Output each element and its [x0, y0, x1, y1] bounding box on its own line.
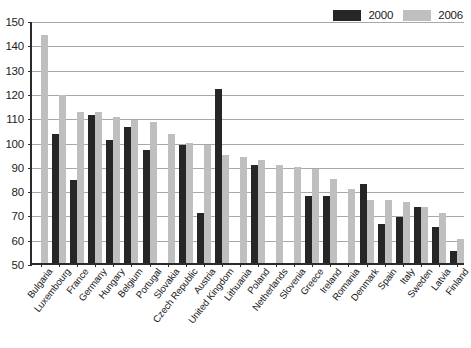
bar-group: [303, 22, 321, 263]
bar-group: [430, 22, 448, 263]
bar-2000: [143, 150, 150, 263]
bar-2000: [305, 196, 312, 263]
bar-2006: [204, 145, 211, 263]
bar-group: [231, 22, 249, 263]
legend-swatch-2006: [403, 10, 431, 21]
bar-2000: [450, 251, 457, 263]
bar-group: [159, 22, 177, 263]
y-axis-tick-label: 110: [0, 113, 24, 125]
bar-2006: [186, 143, 193, 263]
bar-group: [177, 22, 195, 263]
bar-2000: [251, 165, 258, 263]
bar-group: [249, 22, 267, 263]
bar-group: [86, 22, 104, 263]
bar-2006: [168, 134, 175, 263]
bar-group: [394, 22, 412, 263]
y-axis-tick-label: 120: [0, 89, 24, 101]
y-axis-tick-label: 50: [0, 259, 24, 271]
y-axis-tick-label: 90: [0, 162, 24, 174]
bar-2000: [106, 140, 113, 263]
bar-2000: [88, 115, 95, 263]
bar-2006: [150, 122, 157, 263]
plot-area: [30, 22, 464, 265]
legend-label-2006: 2006: [438, 9, 463, 21]
y-axis-labels: 5060708090100110120130140150: [0, 22, 28, 265]
bar-2006: [59, 95, 66, 263]
bar-2000: [414, 207, 421, 263]
bar-2006: [312, 169, 319, 263]
y-axis-tick-label: 140: [0, 40, 24, 52]
y-axis-tick-label: 150: [0, 16, 24, 28]
x-axis-labels: BulgariaLuxembourgFranceGermanyHungaryBe…: [30, 266, 464, 348]
legend-label-2000: 2000: [368, 9, 393, 21]
y-axis-tick-label: 60: [0, 235, 24, 247]
bar-2000: [124, 127, 131, 263]
bar-2006: [421, 207, 428, 263]
bar-2000: [396, 217, 403, 263]
bar-2000: [360, 184, 367, 263]
bar-group: [321, 22, 339, 263]
bar-2006: [330, 179, 337, 263]
legend-swatch-2000: [333, 10, 361, 21]
y-axis-tick-label: 130: [0, 65, 24, 77]
bar-series-container: [32, 22, 464, 263]
bar-2006: [95, 112, 102, 263]
bar-group: [50, 22, 68, 263]
bar-2006: [294, 167, 301, 263]
bar-2006: [77, 112, 84, 263]
bar-2000: [52, 134, 59, 263]
bar-2006: [258, 160, 265, 263]
bar-2006: [276, 165, 283, 263]
x-axis-tick-label: Spain: [375, 266, 398, 292]
bar-group: [122, 22, 140, 263]
bar-group: [141, 22, 159, 263]
bar-2006: [348, 189, 355, 263]
bar-group: [339, 22, 357, 263]
bar-group: [376, 22, 394, 263]
y-axis-tick-label: 80: [0, 186, 24, 198]
bar-group: [412, 22, 430, 263]
bar-2000: [215, 89, 222, 263]
legend-item-2000: 2000: [333, 9, 393, 21]
bar-group: [195, 22, 213, 263]
bar-2006: [240, 157, 247, 263]
chart-legend: 2000 2006: [333, 9, 463, 21]
bar-2000: [323, 196, 330, 263]
bar-group: [68, 22, 86, 263]
bar-2006: [222, 155, 229, 263]
bar-2000: [378, 224, 385, 263]
bar-group: [104, 22, 122, 263]
bar-group: [285, 22, 303, 263]
bar-2000: [197, 213, 204, 263]
bar-group: [267, 22, 285, 263]
bar-2006: [385, 200, 392, 263]
bar-group: [448, 22, 466, 263]
y-axis-tick-label: 100: [0, 138, 24, 150]
bar-2006: [367, 200, 374, 263]
bar-2000: [432, 227, 439, 263]
bar-group: [358, 22, 376, 263]
bar-2000: [179, 145, 186, 263]
bar-2006: [439, 213, 446, 263]
bar-2006: [41, 35, 48, 263]
bar-group: [32, 22, 50, 263]
bar-2006: [403, 202, 410, 263]
bar-2006: [457, 239, 464, 263]
y-axis-tick-label: 70: [0, 210, 24, 222]
bar-2006: [113, 117, 120, 263]
bar-group: [213, 22, 231, 263]
bar-2006: [131, 120, 138, 263]
legend-item-2006: 2006: [403, 9, 463, 21]
bar-2000: [70, 180, 77, 263]
